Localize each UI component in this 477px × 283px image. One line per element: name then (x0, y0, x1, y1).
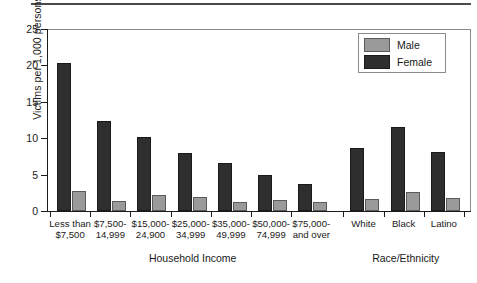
x-axis-tick (211, 212, 212, 217)
x-label-line1: $75,000- (292, 218, 330, 229)
bar-female (57, 63, 71, 211)
x-axis-tick (291, 212, 292, 217)
bar-female (298, 184, 312, 211)
y-axis-tick (41, 175, 47, 176)
legend-label-male: Male (397, 39, 420, 51)
x-label-line1: White (351, 218, 376, 229)
y-axis-tick-label: 25 (10, 24, 38, 34)
x-axis-tick (171, 212, 172, 217)
y-axis-tick (41, 65, 47, 66)
y-axis-tick (41, 211, 47, 212)
bar-male (152, 195, 166, 211)
x-label-line2: and over (281, 229, 341, 240)
bar-female (391, 127, 405, 211)
bar-female (218, 163, 232, 211)
bar-male (233, 202, 247, 211)
y-axis-tick (41, 29, 47, 30)
bar-male (313, 202, 327, 211)
y-axis-tick-label: 15 (10, 97, 38, 107)
chart-legend: Male Female (358, 33, 446, 73)
x-label-line1: Latino (431, 218, 457, 229)
x-axis-tick (50, 212, 51, 217)
x-axis-group-title: Household Income (113, 252, 273, 264)
x-axis-tick (251, 212, 252, 217)
x-axis-tick (424, 212, 425, 217)
y-axis-tick-label: 0 (10, 206, 38, 216)
bar-male (72, 191, 86, 211)
y-axis-tick (41, 138, 47, 139)
y-axis-tick-label: 5 (10, 170, 38, 180)
bar-chart-figure: Victims per 1,000 persons 0510152025 Les… (0, 0, 477, 283)
x-axis-tick (130, 212, 131, 217)
bar-female (97, 121, 111, 211)
x-axis-tick (384, 212, 385, 217)
x-label-line1: Black (392, 218, 415, 229)
bar-female (137, 137, 151, 211)
bar-male (193, 197, 207, 211)
bar-female (258, 175, 272, 211)
bar-male (446, 198, 460, 211)
x-axis-tick (90, 212, 91, 217)
bar-female (178, 153, 192, 211)
y-axis-tick-label: 20 (10, 60, 38, 70)
x-axis-tick (343, 212, 344, 217)
legend-swatch-male-icon (364, 38, 390, 52)
x-axis-category-label: $75,000-and over (281, 218, 341, 240)
bar-male (406, 192, 420, 211)
legend-swatch-female-icon (364, 55, 390, 69)
bar-male (273, 200, 287, 211)
y-axis-tick-label: 10 (10, 133, 38, 143)
x-axis-group-title: Race/Ethnicity (326, 252, 477, 264)
bar-female (350, 148, 364, 211)
y-axis-tick (41, 102, 47, 103)
x-axis-tick (464, 212, 465, 217)
legend-label-female: Female (397, 56, 432, 68)
bar-male (112, 201, 126, 211)
x-axis-category-label: Latino (414, 218, 474, 229)
bar-female (431, 152, 445, 211)
x-axis-line (47, 211, 471, 212)
bar-male (365, 199, 379, 211)
